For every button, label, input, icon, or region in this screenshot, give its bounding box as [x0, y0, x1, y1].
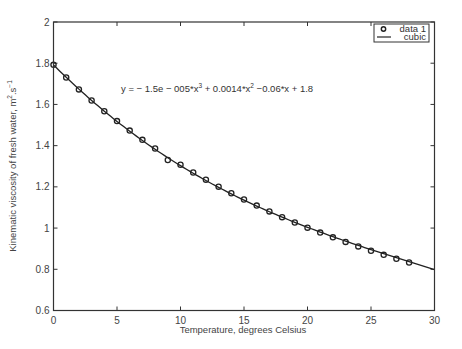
tick-labels: 0510152025300.60.811.21.41.61.82 [36, 17, 441, 326]
cubic-fit-line [54, 65, 435, 270]
y-tick-label: 0.8 [36, 264, 50, 275]
chart: 0510152025300.60.811.21.41.61.82 y = − 1… [0, 0, 462, 349]
x-tick-label: 0 [51, 315, 57, 326]
y-axis-label: Kinematic viscosity of fresh water, m2.s… [6, 80, 18, 252]
x-axis-label: Temperature, degrees Celsius [180, 324, 307, 335]
y-tick-label: 1 [44, 223, 50, 234]
y-tick-label: 1.2 [36, 181, 50, 192]
y-tick-label: 2 [44, 17, 50, 28]
x-tick-label: 25 [365, 315, 377, 326]
x-tick-label: 30 [429, 315, 441, 326]
plot-area-frame [54, 22, 435, 311]
legend: data 1 cubic [374, 23, 429, 42]
y-tick-label: 0.6 [36, 305, 50, 316]
legend-label-cubic: cubic [404, 31, 426, 42]
fit-equation: y = − 1.5e − 005*x3 + 0.0014*x2 −0.06*x … [121, 82, 313, 94]
y-tick-label: 1.8 [36, 58, 50, 69]
y-tick-label: 1.4 [36, 140, 50, 151]
y-tick-label: 1.6 [36, 99, 50, 110]
x-tick-label: 5 [114, 315, 120, 326]
axis-ticks [54, 22, 435, 311]
